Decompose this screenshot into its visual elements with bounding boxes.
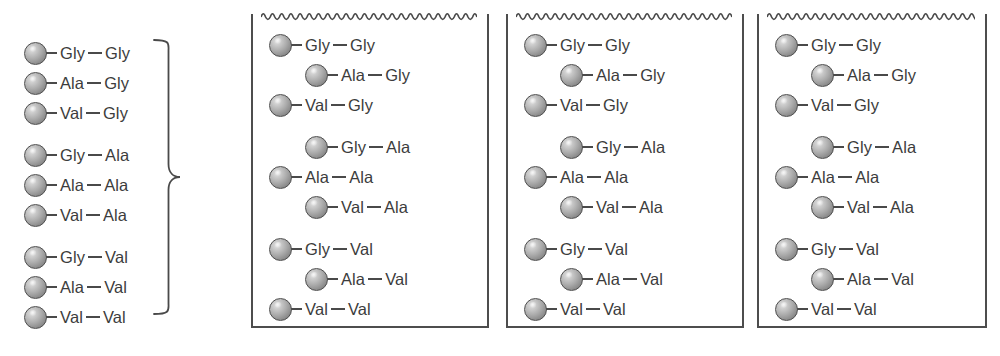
c-terminal-residue: Gly (851, 97, 882, 114)
resin-bag-1: GlyGlyAlaGlyValGlyGlyAlaAlaAlaValAlaGlyV… (251, 0, 489, 356)
c-terminal-residue: Val (345, 301, 374, 318)
peptide-bond-line (88, 52, 102, 54)
c-terminal-residue: Gly (888, 67, 919, 84)
n-terminal-residue: Ala (302, 169, 332, 186)
resin-bead-icon (305, 64, 328, 87)
n-terminal-residue: Gly (57, 249, 88, 266)
dipeptide-row: ValGly (24, 98, 131, 128)
resin-bead-icon (811, 196, 834, 219)
resin-bead-icon (24, 102, 47, 125)
peptide-bond-line (368, 74, 382, 76)
bond-line (546, 44, 557, 46)
n-terminal-residue: Gly (844, 139, 875, 156)
resin-bead-icon (560, 136, 583, 159)
dipeptide-row: GlyAla (811, 132, 919, 162)
bond-line (546, 248, 557, 250)
resin-bead-icon (24, 72, 47, 95)
dipeptide-row: ValVal (24, 302, 129, 332)
n-terminal-residue: Ala (57, 177, 87, 194)
c-terminal-residue: Val (347, 241, 376, 258)
c-terminal-residue: Ala (101, 177, 131, 194)
c-terminal-residue: Gly (600, 97, 631, 114)
n-terminal-residue: Gly (557, 37, 588, 54)
c-terminal-residue: Ala (889, 139, 919, 156)
bond-line (291, 248, 302, 250)
n-terminal-residue: Val (338, 199, 367, 216)
c-terminal-residue: Ala (636, 199, 666, 216)
c-terminal-residue: Ala (852, 169, 882, 186)
bond-line (291, 104, 302, 106)
resin-bead-icon (305, 196, 328, 219)
bond-line (291, 308, 302, 310)
c-terminal-residue: Val (853, 241, 882, 258)
dipeptide-row: GlyAla (24, 140, 132, 170)
dipeptide-row: GlyGly (524, 30, 633, 60)
dipeptide-row: AlaVal (305, 264, 411, 294)
n-terminal-residue: Val (808, 301, 837, 318)
resin-bead-icon (24, 174, 47, 197)
dipeptide-row: AlaAla (24, 170, 131, 200)
bond-line (546, 176, 557, 178)
bond-line (582, 206, 593, 208)
n-terminal-residue: Gly (302, 241, 333, 258)
c-terminal-residue: Val (637, 271, 666, 288)
peptide-bond-line (87, 184, 101, 186)
peptide-bond-line (87, 286, 101, 288)
peptide-bond-line (86, 214, 100, 216)
bond-line (833, 206, 844, 208)
dipeptide-row: ValGly (524, 90, 631, 120)
bond-line (833, 278, 844, 280)
n-terminal-residue: Ala (57, 279, 87, 296)
c-terminal-residue: Val (600, 301, 629, 318)
bond-line (833, 74, 844, 76)
dipeptide-row: ValAla (24, 200, 130, 230)
resin-bag-2: GlyGlyAlaGlyValGlyGlyAlaAlaAlaValAlaGlyV… (506, 0, 744, 356)
dipeptide-row: ValGly (269, 90, 376, 120)
peptide-bond-line (587, 176, 601, 178)
c-terminal-residue: Ala (100, 207, 130, 224)
bond-line (46, 286, 57, 288)
peptide-bond-line (333, 44, 347, 46)
c-terminal-residue: Gly (382, 67, 413, 84)
resin-bead-icon (269, 166, 292, 189)
dipeptide-row: GlyVal (524, 234, 631, 264)
peptide-bond-line (87, 82, 101, 84)
n-terminal-residue: Val (557, 97, 586, 114)
resin-bag-3: GlyGlyAlaGlyValGlyGlyAlaAlaAlaValAlaGlyV… (757, 0, 987, 356)
bond-line (582, 278, 593, 280)
resin-bead-icon (269, 34, 292, 57)
bond-line (46, 52, 57, 54)
bond-line (797, 104, 808, 106)
resin-bead-icon (305, 268, 328, 291)
dipeptide-row: AlaAla (269, 162, 376, 192)
peptide-bond-line (875, 146, 889, 148)
peptide-bond-line (368, 278, 382, 280)
n-terminal-residue: Val (557, 301, 586, 318)
n-terminal-residue: Ala (808, 169, 838, 186)
bond-line (797, 176, 808, 178)
peptide-bond-line (88, 154, 102, 156)
dipeptide-row: ValVal (524, 294, 629, 324)
resin-bead-icon (811, 268, 834, 291)
dipeptide-row: AlaGly (24, 68, 132, 98)
dipeptide-row: ValAla (560, 192, 666, 222)
dipeptide-row: ValGly (775, 90, 882, 120)
peptide-bond-line (837, 104, 851, 106)
peptide-bond-line (874, 74, 888, 76)
bond-line (46, 184, 57, 186)
n-terminal-residue: Ala (338, 271, 368, 288)
dipeptide-row: GlyVal (269, 234, 376, 264)
bond-line (46, 82, 57, 84)
peptide-bond-line (586, 104, 600, 106)
resin-bead-icon (269, 238, 292, 261)
dipeptide-row: GlyGly (269, 30, 378, 60)
n-terminal-residue: Val (302, 301, 331, 318)
dipeptide-library-figure: GlyGlyAlaGlyValGlyGlyAlaAlaAlaValAlaGlyV… (0, 0, 1000, 356)
peptide-bond-line (839, 248, 853, 250)
dipeptide-row: AlaVal (24, 272, 130, 302)
bond-line (797, 308, 808, 310)
peptide-bond-line (839, 44, 853, 46)
n-terminal-residue: Ala (57, 75, 87, 92)
n-terminal-residue: Val (844, 199, 873, 216)
n-terminal-residue: Val (302, 97, 331, 114)
